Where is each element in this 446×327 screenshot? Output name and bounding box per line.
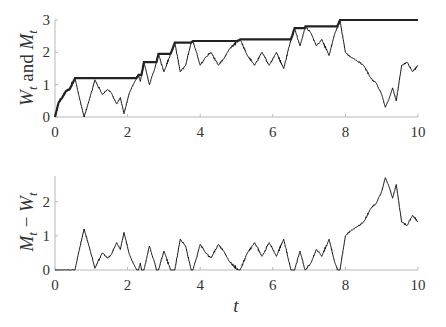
y-tick-label: 0 bbox=[43, 109, 51, 125]
m-minus-w-series-line bbox=[55, 178, 418, 270]
x-tick-label: 10 bbox=[411, 277, 426, 293]
top-panel: 0123 0246810 Wt and Mt bbox=[16, 12, 426, 140]
top-y-ticks: 0123 bbox=[43, 12, 59, 125]
x-tick-label: 10 bbox=[411, 124, 426, 140]
x-tick-label: 6 bbox=[269, 277, 277, 293]
y-tick-label: 2 bbox=[43, 194, 51, 210]
y-tick-label: 3 bbox=[43, 12, 51, 28]
y-tick-label: 1 bbox=[43, 77, 51, 93]
bottom-y-ticks: 012 bbox=[43, 194, 59, 278]
y-tick-label: 1 bbox=[43, 228, 51, 244]
x-tick-label: 0 bbox=[51, 124, 59, 140]
top-y-axis-label: Wt and Mt bbox=[16, 30, 40, 106]
w-t-series-line bbox=[55, 20, 418, 117]
x-tick-label: 2 bbox=[124, 277, 132, 293]
m-t-series-line bbox=[55, 20, 418, 117]
y-tick-label: 2 bbox=[43, 44, 51, 60]
bottom-x-axis-label: t bbox=[233, 295, 239, 316]
bottom-x-ticks: 0246810 bbox=[51, 267, 425, 293]
x-tick-label: 4 bbox=[196, 124, 204, 140]
x-tick-label: 0 bbox=[51, 277, 59, 293]
x-tick-label: 2 bbox=[124, 124, 132, 140]
x-tick-label: 6 bbox=[269, 124, 277, 140]
x-tick-label: 4 bbox=[196, 277, 204, 293]
x-tick-label: 8 bbox=[342, 124, 350, 140]
x-tick-label: 8 bbox=[342, 277, 350, 293]
top-x-ticks: 0246810 bbox=[51, 114, 425, 140]
bottom-panel: 012 0246810 Mt − Wt t bbox=[16, 176, 426, 316]
figure: 0123 0246810 Wt and Mt 012 0246810 Mt − … bbox=[0, 0, 446, 327]
bottom-y-axis-label: Mt − Wt bbox=[16, 192, 40, 253]
y-tick-label: 0 bbox=[43, 262, 51, 278]
